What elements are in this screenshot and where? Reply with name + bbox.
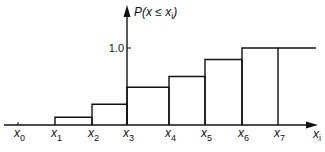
step-bar bbox=[242, 48, 278, 125]
step-bar bbox=[92, 104, 127, 125]
step-bar bbox=[205, 60, 242, 125]
x-tick-label: x5 bbox=[200, 126, 212, 143]
x-tick-label: x2 bbox=[87, 126, 99, 143]
x-tick-label: x3 bbox=[122, 126, 134, 143]
x-axis-label: xi bbox=[312, 127, 321, 143]
step-bar bbox=[55, 117, 92, 125]
x-tick-label: x6 bbox=[237, 126, 249, 143]
cdf-step-chart: 1.0 P(x ≤ xi) xi x0x1x2x3x4x5x6x7 bbox=[0, 0, 325, 152]
y-tick-label: 1.0 bbox=[109, 42, 124, 54]
step-bar bbox=[127, 87, 169, 125]
x-tick-labels: x0x1x2x3x4x5x6x7 bbox=[13, 126, 285, 143]
step-bar bbox=[169, 76, 205, 125]
x-tick-label: x1 bbox=[50, 126, 62, 143]
plot-area bbox=[55, 48, 316, 125]
x-tick-label: x4 bbox=[164, 126, 176, 143]
y-axis-arrow-icon bbox=[124, 5, 131, 17]
x-tick-label: x7 bbox=[273, 126, 285, 143]
x-tick-label: x0 bbox=[13, 126, 25, 143]
y-axis-label: P(x ≤ xi) bbox=[134, 5, 177, 21]
